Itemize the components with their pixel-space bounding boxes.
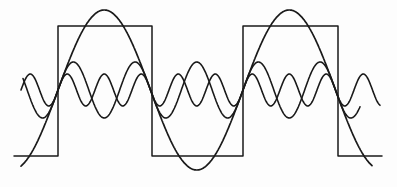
square-wave [14,26,382,156]
third-harmonic-wave [23,62,360,118]
fundamental-sine-wave [21,10,372,170]
diagram-canvas [0,0,397,187]
fifth-harmonic-wave [21,74,380,106]
fourier-diagram [0,0,397,187]
